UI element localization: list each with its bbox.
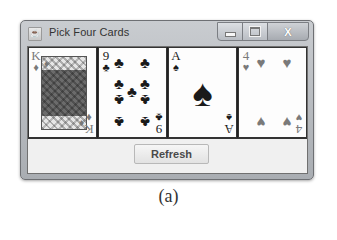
heart-icon: ♥ (257, 55, 266, 70)
club-icon: ♣ (140, 93, 150, 108)
minimize-icon (225, 32, 236, 37)
card-rank: 4 (296, 122, 303, 137)
app-window: ☕ Pick Four Cards X K ♦ ♦ ♦ (20, 20, 314, 180)
card-corner-top: A ♠ (171, 50, 181, 73)
heart-icon: ♥ (283, 115, 292, 130)
maximize-button[interactable] (242, 22, 268, 41)
card-rank: 9 (156, 122, 163, 137)
club-icon: ♣ (140, 115, 150, 130)
heart-icon: ♥ (283, 55, 292, 70)
title-bar[interactable]: ☕ Pick Four Cards X (21, 21, 313, 45)
card-corner-bottom: 9 ♣ (154, 112, 164, 135)
close-icon: X (268, 23, 308, 40)
card-rank: K (84, 122, 93, 137)
card-king-of-diamonds: K ♦ ♦ ♦ K ♦ (28, 47, 97, 138)
card-corner-top: 9 ♣ (101, 50, 111, 73)
club-icon: ♣ (154, 112, 164, 123)
java-app-icon: ☕ (28, 27, 42, 41)
figure-caption: (a) (0, 186, 337, 207)
card-corner-bottom: A ♠ (224, 112, 234, 135)
card-corner-bottom: 4 ♥ (294, 112, 304, 135)
card-ace-of-spades: A ♠ ♠ A ♠ (168, 47, 237, 138)
club-icon: ♣ (101, 62, 111, 73)
content-pane: K ♦ ♦ ♦ K ♦ 9 ♣ ♣ ♣ ♣ (27, 46, 308, 174)
window-title: Pick Four Cards (49, 26, 129, 38)
card-corner-top: 4 ♥ (241, 50, 251, 73)
minimize-button[interactable] (217, 22, 243, 41)
close-button[interactable]: X (267, 22, 309, 41)
club-icon: ♣ (140, 55, 150, 70)
club-icon: ♣ (140, 76, 150, 91)
card-corner-bottom: K ♦ (84, 112, 94, 135)
card-four-of-hearts: 4 ♥ ♥ ♥ ♥ ♥ 4 ♥ (238, 47, 307, 138)
club-icon: ♣ (114, 115, 124, 130)
card-nine-of-clubs: 9 ♣ ♣ ♣ ♣ ♣ ♣ ♣ ♣ ♣ ♣ 9 ♣ (98, 47, 167, 138)
card-rank: A (224, 122, 233, 137)
cards-panel: K ♦ ♦ ♦ K ♦ 9 ♣ ♣ ♣ ♣ (28, 47, 307, 139)
spade-icon: ♠ (192, 74, 212, 112)
card-corner-top: K ♦ (31, 50, 41, 73)
heart-icon: ♥ (257, 115, 266, 130)
spade-icon: ♠ (171, 62, 181, 73)
club-icon: ♣ (127, 84, 137, 99)
diamond-icon: ♦ (44, 58, 49, 69)
king-face-image: ♦ ♦ (41, 56, 87, 130)
heart-icon: ♥ (241, 62, 251, 73)
maximize-icon (250, 27, 260, 36)
club-icon: ♣ (114, 55, 124, 70)
club-icon: ♣ (114, 93, 124, 108)
heart-icon: ♥ (294, 112, 304, 123)
diamond-icon: ♦ (31, 62, 41, 73)
club-icon: ♣ (114, 76, 124, 91)
refresh-button[interactable]: Refresh (134, 144, 209, 164)
